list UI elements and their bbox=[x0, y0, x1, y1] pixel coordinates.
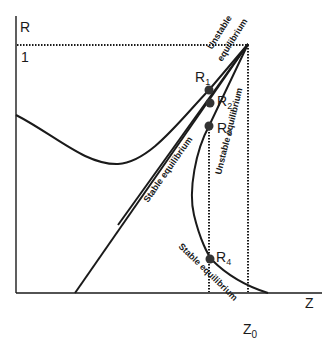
label-r1: R1 bbox=[195, 69, 210, 87]
y-tick-one: 1 bbox=[21, 49, 29, 65]
point-r3 bbox=[205, 122, 214, 131]
z0-label: Z0 bbox=[243, 321, 258, 340]
annotation-stable-diagonal: Stable equilibrium bbox=[141, 135, 194, 205]
equilibrium-diagram: R 1 Z Z0 R1 R2 R3 R4 Unstable equilibriu… bbox=[0, 0, 335, 352]
label-r4: R4 bbox=[216, 249, 231, 267]
point-r2 bbox=[206, 99, 215, 108]
point-r4 bbox=[206, 255, 215, 264]
y-axis-label: R bbox=[20, 19, 30, 35]
x-axis-label: Z bbox=[305, 295, 314, 311]
